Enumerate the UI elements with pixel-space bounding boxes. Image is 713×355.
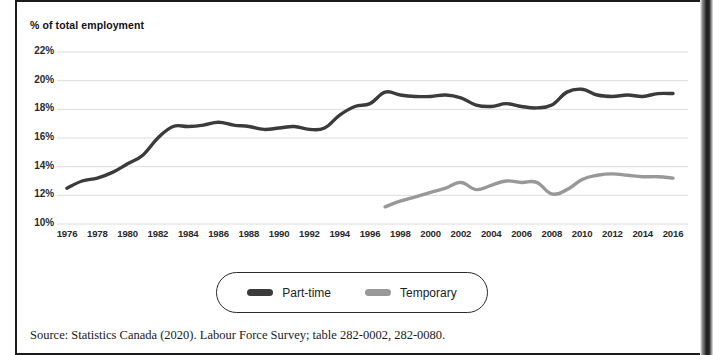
x-tick-label: 2012 xyxy=(595,228,629,239)
y-tick-label: 12% xyxy=(18,188,54,199)
y-tick-label: 14% xyxy=(18,160,54,171)
series-layer xyxy=(67,89,673,207)
x-tick-label: 1986 xyxy=(202,228,236,239)
x-tick-label: 2010 xyxy=(565,228,599,239)
y-tick-label: 22% xyxy=(18,45,54,56)
y-tick-label: 20% xyxy=(18,74,54,85)
legend-swatch-icon xyxy=(365,289,391,296)
x-tick-label: 2004 xyxy=(474,228,508,239)
y-tick-label: 16% xyxy=(18,131,54,142)
gridlines xyxy=(57,52,688,224)
x-tick-label: 1984 xyxy=(171,228,205,239)
x-tick-label: 1980 xyxy=(111,228,145,239)
x-tick-label: 1978 xyxy=(80,228,114,239)
x-tick-label: 2000 xyxy=(414,228,448,239)
y-tick-label: 18% xyxy=(18,102,54,113)
x-tick-label: 2008 xyxy=(535,228,569,239)
x-tick-label: 1982 xyxy=(141,228,175,239)
x-tick-label: 2006 xyxy=(505,228,539,239)
series-line-part-time xyxy=(67,89,673,188)
legend-label: Part-time xyxy=(282,286,331,300)
legend-item-part-time[interactable]: Part-time xyxy=(247,286,331,300)
x-tick-label: 1988 xyxy=(232,228,266,239)
legend-item-temporary[interactable]: Temporary xyxy=(365,286,457,300)
legend-label: Temporary xyxy=(400,286,457,300)
x-tick-label: 2014 xyxy=(626,228,660,239)
legend-swatch-icon xyxy=(247,289,273,296)
y-tick-label: 10% xyxy=(18,217,54,228)
source-note: Source: Statistics Canada (2020). Labour… xyxy=(30,328,445,343)
x-tick-label: 1994 xyxy=(323,228,357,239)
x-tick-label: 1990 xyxy=(262,228,296,239)
x-tick-label: 1998 xyxy=(383,228,417,239)
x-tick-label: 2016 xyxy=(656,228,690,239)
series-line-temporary xyxy=(385,174,673,207)
figure-page: % of total employment 22%20%18%16%14%12%… xyxy=(0,0,713,355)
x-tick-label: 2002 xyxy=(444,228,478,239)
x-tick-label: 1992 xyxy=(292,228,326,239)
chart-legend: Part-timeTemporary xyxy=(216,272,488,313)
x-tick-label: 1996 xyxy=(353,228,387,239)
x-tick-label: 1976 xyxy=(50,228,84,239)
